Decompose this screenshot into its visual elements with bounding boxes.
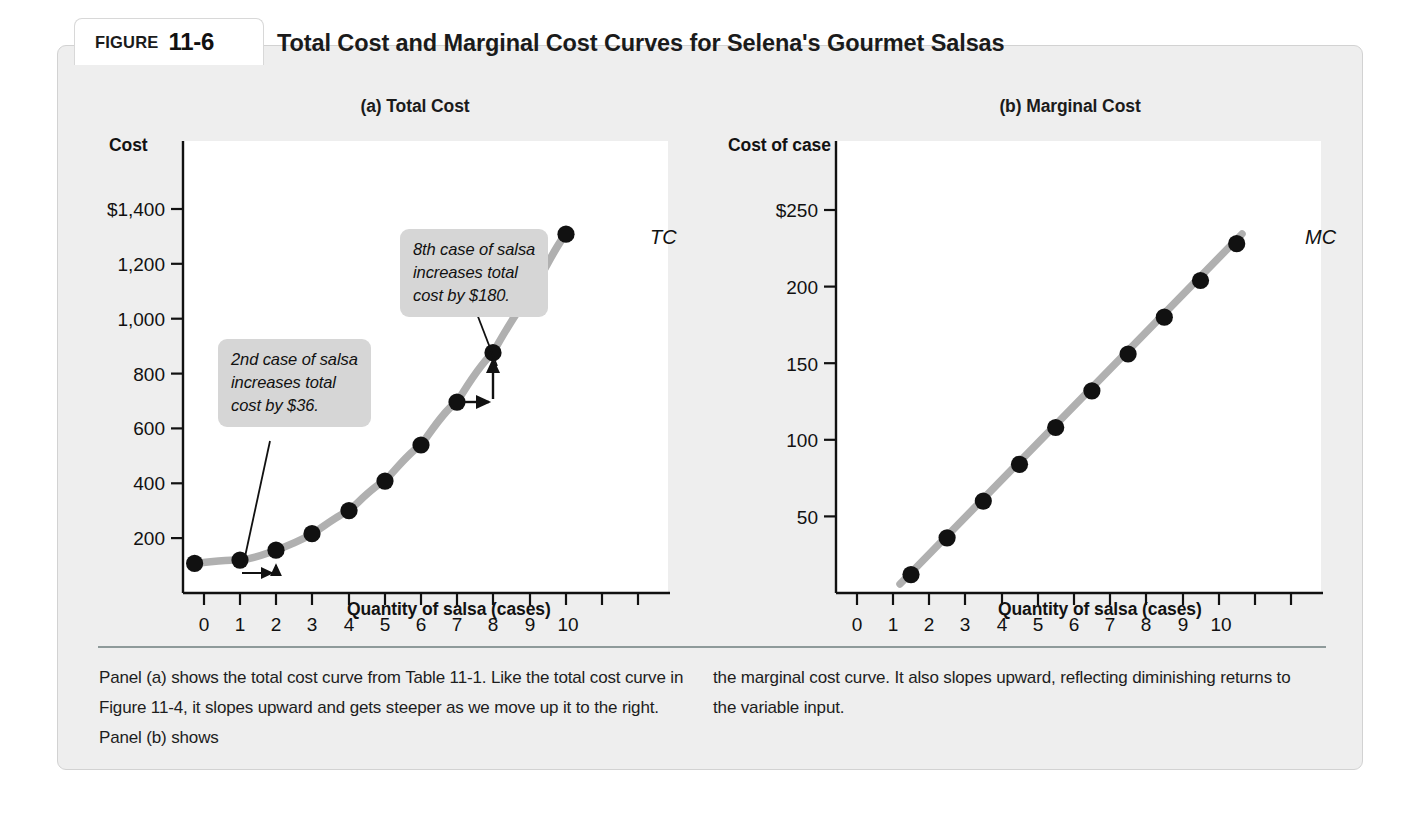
plot-area-background xyxy=(836,141,1321,593)
caption-divider xyxy=(98,646,1326,648)
data-point xyxy=(902,566,919,583)
figure-label: FIGURE xyxy=(95,33,159,52)
x-tick-label: 10 xyxy=(1210,614,1231,635)
total-cost-curve-label: TC xyxy=(650,226,677,249)
data-point xyxy=(376,473,393,490)
x-tick-label: 3 xyxy=(307,614,318,635)
data-point xyxy=(1120,345,1137,362)
data-point xyxy=(186,555,203,572)
y-tick-label: 100 xyxy=(786,430,818,451)
y-tick-label: 1,200 xyxy=(117,254,165,275)
y-axis-ticks xyxy=(171,209,183,538)
x-tick-label: 1 xyxy=(888,614,899,635)
panel-a-plot: 200 400 600 800 1,000 1,200 $1,400 0 1 2… xyxy=(75,96,695,636)
data-point xyxy=(340,502,357,519)
data-point xyxy=(1047,419,1064,436)
y-tick-label: 1,000 xyxy=(117,309,165,330)
data-point xyxy=(557,226,574,243)
y-tick-label: 200 xyxy=(133,528,165,549)
x-tick-label: 0 xyxy=(199,614,210,635)
panel-total-cost: (a) Total Cost xyxy=(75,96,695,636)
data-point xyxy=(303,525,320,542)
x-tick-label: 1 xyxy=(235,614,246,635)
caption-left: Panel (a) shows the total cost curve fro… xyxy=(99,663,684,753)
panel-marginal-cost: (b) Marginal Cost xyxy=(718,96,1338,636)
marginal-cost-chart-svg: 50 100 150 200 $250 0 1 2 3 4 5 6 7 8 9 … xyxy=(718,96,1338,636)
panel-b-plot: 50 100 150 200 $250 0 1 2 3 4 5 6 7 8 9 … xyxy=(718,96,1338,636)
figure-card: (a) Total Cost xyxy=(57,45,1363,770)
panel-b-x-axis-title: Quantity of salsa (cases) xyxy=(998,599,1202,620)
y-tick-label: $250 xyxy=(776,200,818,221)
data-point xyxy=(1011,456,1028,473)
marginal-cost-curve-label: MC xyxy=(1305,226,1336,249)
x-tick-label: 0 xyxy=(852,614,863,635)
panel-a-x-axis-title: Quantity of salsa (cases) xyxy=(347,599,551,620)
y-tick-label: 150 xyxy=(786,354,818,375)
x-tick-label: 10 xyxy=(557,614,578,635)
x-tick-label: 2 xyxy=(924,614,935,635)
callout-eighth-case: 8th case of salsa increases total cost b… xyxy=(400,229,548,317)
callout-second-case: 2nd case of salsa increases total cost b… xyxy=(218,339,371,427)
data-point xyxy=(975,493,992,510)
data-point xyxy=(484,344,501,361)
x-tick-label: 2 xyxy=(271,614,282,635)
data-point xyxy=(1228,235,1245,252)
data-point xyxy=(267,542,284,559)
data-point xyxy=(412,436,429,453)
y-tick-label: $1,400 xyxy=(107,199,165,220)
data-point xyxy=(939,529,956,546)
x-tick-label: 3 xyxy=(960,614,971,635)
y-tick-label: 800 xyxy=(133,364,165,385)
y-tick-label: 400 xyxy=(133,473,165,494)
total-cost-chart-svg: 200 400 600 800 1,000 1,200 $1,400 0 1 2… xyxy=(75,96,695,636)
data-point xyxy=(1192,272,1209,289)
figure-title: Total Cost and Marginal Cost Curves for … xyxy=(277,20,1005,66)
y-axis-ticks xyxy=(824,210,836,516)
data-point xyxy=(1156,309,1173,326)
y-tick-label: 200 xyxy=(786,277,818,298)
y-tick-label: 600 xyxy=(133,418,165,439)
figure-number: 11-6 xyxy=(169,28,215,56)
data-point xyxy=(1083,382,1100,399)
panel-a-y-axis-title: Cost xyxy=(109,136,148,155)
figure-tab: FIGURE 11-6 xyxy=(74,18,264,65)
panel-b-y-axis-title: Cost of case xyxy=(728,136,823,155)
caption-right: the marginal cost curve. It also slopes … xyxy=(713,663,1313,723)
y-tick-label: 50 xyxy=(797,507,818,528)
